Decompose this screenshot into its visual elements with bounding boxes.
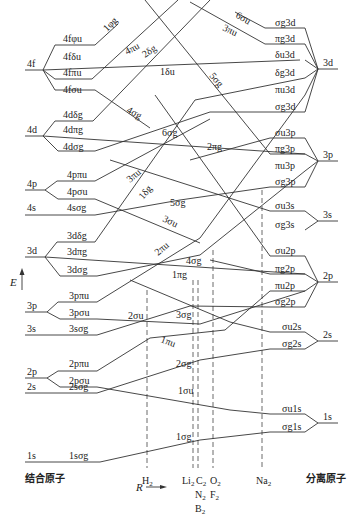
- level-label: 1sσg: [69, 450, 88, 461]
- level-label: 3s: [27, 323, 36, 334]
- level-label: 4p: [27, 178, 37, 189]
- level-label: 4dσg: [63, 141, 83, 152]
- mo-label: 1δu: [160, 66, 175, 77]
- level-label: σu3s: [275, 200, 294, 211]
- mo-label: 4σg: [186, 255, 201, 266]
- level-label: σg3s: [275, 219, 294, 230]
- level-label: σg3p: [275, 176, 295, 187]
- energy-axis-label: E: [9, 276, 17, 288]
- level-label: 1s: [27, 450, 36, 461]
- separated-atom-caption: 分离原子: [306, 472, 346, 484]
- molecule-label-f2: F2: [210, 489, 220, 502]
- energy-axis: E: [9, 268, 25, 290]
- level-label: 4fδu: [63, 51, 81, 62]
- mo-label: 5σg: [207, 70, 225, 89]
- level-label: σg3d: [275, 101, 295, 112]
- level-label: 4fφu: [63, 33, 82, 44]
- level-label: 4dπg: [63, 124, 83, 135]
- level-label: δg3d: [275, 67, 295, 78]
- molecule-label-n2: N2: [195, 489, 206, 502]
- molecule-label-h2: H2: [142, 475, 153, 488]
- level-label: 2p: [27, 366, 37, 377]
- level-label: 1s: [323, 411, 332, 422]
- molecule-label-c2: C2: [196, 475, 207, 488]
- level-label: σg1s: [282, 421, 301, 432]
- level-label: 4fπu: [63, 67, 81, 78]
- mo-label: 4σg: [125, 104, 144, 121]
- mo-label: 4πu: [123, 40, 141, 57]
- level-label: δu3d: [275, 49, 295, 60]
- level-label: 4f: [27, 58, 36, 69]
- united-atom-caption: 结合原子: [25, 472, 65, 484]
- mo-label: 1πg: [172, 269, 187, 280]
- level-label: 2pπu: [69, 358, 89, 369]
- molecule-label-na2: Na2: [256, 475, 272, 488]
- mo-label: 1πu: [159, 334, 177, 349]
- level-label: 4pσu: [67, 186, 87, 197]
- molecule-label-li2: Li2: [182, 475, 195, 488]
- mo-label: 6σg: [162, 127, 177, 138]
- energy-arrow-head-icon: [20, 268, 25, 275]
- level-label: 3dσg: [67, 264, 87, 275]
- mo-label: 1σu: [178, 385, 193, 396]
- molecule-label-o2: O2: [210, 475, 221, 488]
- mo-label: 1σg: [176, 431, 191, 442]
- level-label: 3sσg: [69, 323, 88, 334]
- mo-label: 1δg: [136, 183, 154, 201]
- mo-label: 3σg: [176, 309, 191, 320]
- mo-label: 3πu: [221, 22, 239, 38]
- level-label: 3p: [27, 300, 37, 311]
- level-label: πu3d: [275, 84, 295, 95]
- level-label: 3dπg: [67, 246, 87, 257]
- level-label: 3pπu: [69, 290, 89, 301]
- separated-atom-labels: σg3d πg3d δu3d δg3d πu3d σg3d 3d σu3p πg…: [275, 17, 333, 432]
- mo-label: 2πu: [152, 239, 171, 257]
- level-label: σu2p: [275, 245, 295, 256]
- mo-label: 5σg: [170, 197, 185, 208]
- level-label: 2s: [27, 381, 36, 392]
- mo-label: 2πg: [207, 141, 222, 152]
- level-label: 4s: [27, 202, 36, 213]
- mo-label: 2σg: [176, 358, 191, 369]
- level-label: 3dδg: [67, 230, 87, 241]
- level-label: 2s: [323, 329, 332, 340]
- mo-label: 1φg: [101, 14, 120, 33]
- level-label: 3d: [323, 57, 333, 68]
- united-atom-labels: 4f 4fφu 4fδu 4fπu 4fσu 4d 4dδg 4dπg 4dσg…: [27, 33, 89, 461]
- r-axis-label: R: [135, 481, 143, 493]
- level-label: πg3p: [275, 143, 295, 154]
- level-label: πg2p: [275, 263, 295, 274]
- level-label: 4sσg: [67, 202, 86, 213]
- level-label: 2p: [323, 270, 333, 281]
- level-label: σg3d: [275, 17, 295, 28]
- mo-correlation-diagram: 4f 4fφu 4fδu 4fπu 4fσu 4d 4dδg 4dπg 4dσg…: [0, 0, 358, 520]
- level-label: σu3p: [275, 127, 295, 138]
- level-label: πu3p: [275, 160, 295, 171]
- level-label: πg3d: [275, 33, 295, 44]
- correlation-labels: 1φg 4πu 2δg 1δu 4σg 5σg 6σu 3πu 6σg 2πg …: [101, 9, 253, 442]
- mo-label: 6σu: [234, 9, 253, 26]
- level-label: 3d: [27, 245, 37, 256]
- level-label: 4d: [27, 124, 37, 135]
- level-label: σu2s: [282, 321, 301, 332]
- separated-atom-levels: [305, 28, 338, 432]
- level-label: 2sσg: [69, 381, 88, 392]
- molecule-label-b2: B2: [195, 503, 206, 516]
- level-label: 4dδg: [63, 109, 83, 120]
- mo-label: 2σu: [128, 310, 143, 321]
- level-label: 3s: [323, 209, 332, 220]
- level-label: 4fσu: [63, 84, 82, 95]
- level-label: 4pπu: [67, 169, 87, 180]
- level-label: σg2p: [275, 296, 295, 307]
- level-label: 3p: [323, 149, 333, 160]
- mo-label: 3σu: [161, 213, 180, 229]
- level-label: 3pσu: [69, 307, 89, 318]
- r-arrow-head-icon: [160, 485, 167, 489]
- level-label: πu2p: [275, 280, 295, 291]
- level-label: σu1s: [282, 403, 301, 414]
- level-label: σg2s: [282, 338, 301, 349]
- molecule-labels: H2 Li2 C2 O2 N2 F2 B2 Na2: [142, 475, 272, 516]
